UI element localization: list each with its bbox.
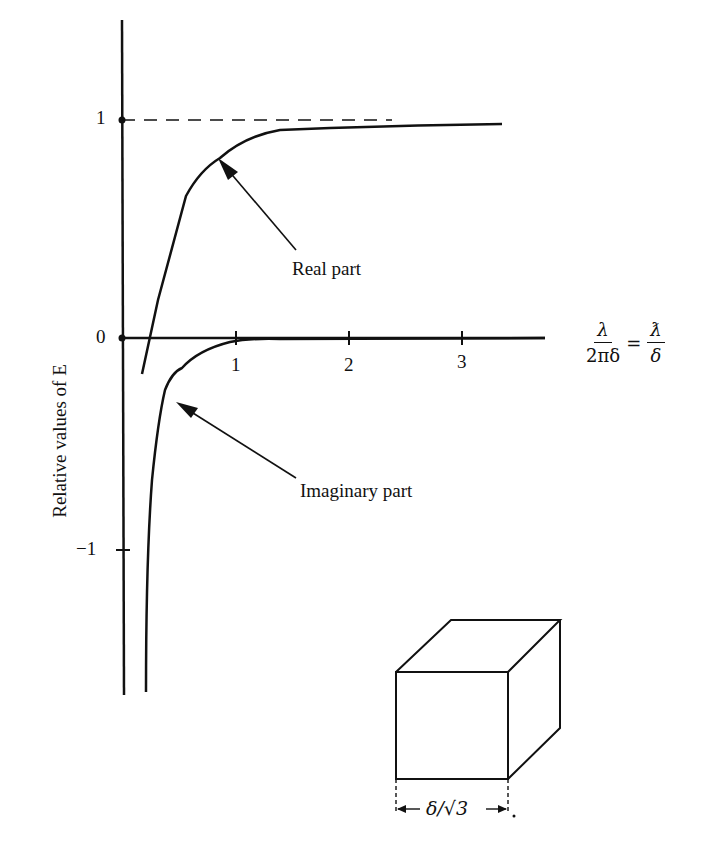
chart-canvas <box>0 0 711 855</box>
imaginary-part-label: Imaginary part <box>300 480 412 502</box>
cube-dimension-label: δ/√3 <box>426 797 468 819</box>
real-part-label: Real part <box>292 258 361 280</box>
y-tick-minus1: −1 <box>76 538 96 560</box>
cube-diagram <box>396 620 560 812</box>
y-axis-label: Relative values of E <box>49 341 71 541</box>
y-tick-1: 1 <box>96 107 106 129</box>
real-arrow-head <box>218 158 238 180</box>
imag-arrow-head <box>176 402 198 418</box>
y-tick-0: 0 <box>96 326 106 348</box>
x-tick-1: 1 <box>231 354 241 376</box>
x-tick-2: 2 <box>344 354 354 376</box>
x-tick-3: 3 <box>457 351 467 373</box>
real-part-curve <box>142 124 502 374</box>
x-axis-label: λ2πδ = ƛδ <box>586 318 665 369</box>
imaginary-part-curve <box>146 338 545 692</box>
